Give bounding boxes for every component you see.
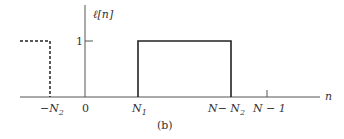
y-tick-label: 1 xyxy=(76,35,83,48)
solid-window-pulse xyxy=(138,41,231,97)
figure-caption: (b) xyxy=(157,119,173,132)
signal-diagram: 1 ℓ[n] n −N2 0 N1 N− N2 N − 1 (b) xyxy=(0,0,344,139)
tick-label-N-minus-1: N − 1 xyxy=(252,102,286,115)
signal-label: ℓ[n] xyxy=(93,8,114,21)
tick-label-zero: 0 xyxy=(82,102,89,115)
x-axis-label: n xyxy=(325,90,332,103)
tick-label-N-minus-N2: N− N2 xyxy=(207,102,245,117)
tick-label-N1: N1 xyxy=(131,102,147,117)
dashed-window-segment xyxy=(20,41,50,97)
tick-label-neg-N2: −N2 xyxy=(40,102,64,117)
